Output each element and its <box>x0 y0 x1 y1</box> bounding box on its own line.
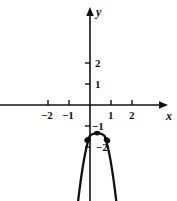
y-tick-label-neg1: −1 <box>92 121 104 132</box>
y-axis-arrowhead <box>86 7 94 16</box>
y-axis-label: y <box>96 6 101 18</box>
x-axis-label: x <box>166 110 172 122</box>
x-tick-label-neg1: −1 <box>62 110 74 121</box>
y-tick-label-pos1: 1 <box>95 79 101 90</box>
coordinate-plane <box>0 0 177 201</box>
y-tick-label-pos2: 2 <box>95 58 101 69</box>
x-tick-label-pos2: 2 <box>129 110 135 121</box>
x-tick-label-pos1: 1 <box>108 110 114 121</box>
x-axis-arrowhead <box>159 101 168 109</box>
x-tick-label-neg2: −2 <box>41 110 53 121</box>
y-tick-label-neg2: −2 <box>96 142 108 153</box>
graph-figure: −2 −1 1 2 2 1 −1 −2 x y <box>0 0 177 201</box>
